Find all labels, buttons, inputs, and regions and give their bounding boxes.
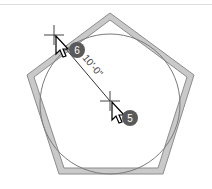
step-number: 5 (127, 113, 133, 124)
drawing-canvas[interactable]: 10'-0" 6 5 (0, 0, 212, 189)
step-number: 6 (74, 45, 80, 56)
